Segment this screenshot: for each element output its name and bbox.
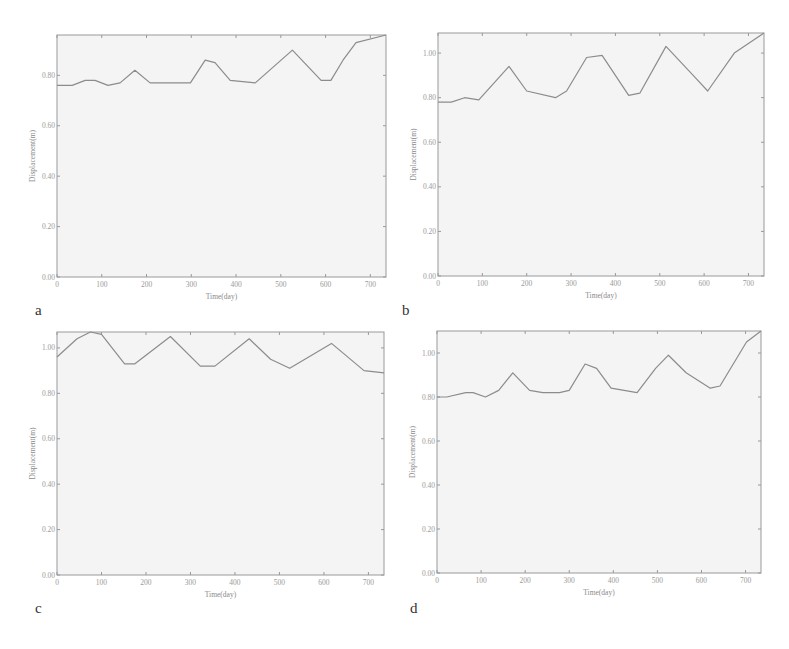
panel-label-d: d — [410, 600, 418, 617]
x-axis-label: Time(day) — [583, 588, 615, 597]
chart-d-svg: 01002003004005006007000.000.200.400.600.… — [0, 0, 789, 649]
x-tick-label: 300 — [564, 576, 576, 585]
y-tick-label: 0.60 — [422, 437, 435, 446]
y-tick-label: 0.00 — [422, 569, 435, 578]
y-tick-label: 1.00 — [422, 349, 435, 358]
plot-area — [437, 331, 761, 573]
x-tick-label: 100 — [475, 576, 487, 585]
x-tick-label: 200 — [520, 576, 532, 585]
x-tick-label: 400 — [608, 576, 620, 585]
y-axis-label: Displacement(m) — [408, 425, 417, 478]
x-tick-label: 600 — [696, 576, 708, 585]
x-tick-label: 0 — [435, 576, 439, 585]
y-tick-label: 0.40 — [422, 481, 435, 490]
x-tick-label: 700 — [740, 576, 752, 585]
chart-panel-d: 01002003004005006007000.000.200.400.600.… — [0, 0, 789, 649]
x-tick-label: 500 — [652, 576, 664, 585]
y-tick-label: 0.20 — [422, 525, 435, 534]
y-tick-label: 0.80 — [422, 393, 435, 402]
